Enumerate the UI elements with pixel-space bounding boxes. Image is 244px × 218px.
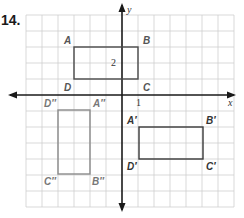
vertex-label-c-prime: C′ <box>206 161 216 172</box>
arrow-up-icon <box>119 3 126 12</box>
vertex-label-a-prime: A′ <box>126 115 137 126</box>
x-axis-label: x <box>227 97 233 108</box>
x-tick-label: 1 <box>136 97 141 108</box>
coordinate-plane: y x 1 2 A B C D A′ B′ C′ D′ A″ B″ C″ D″ <box>0 0 244 218</box>
vertex-label-b-prime: B′ <box>206 115 216 126</box>
y-axis-label: y <box>126 4 132 15</box>
vertex-label-a-double-prime: A″ <box>92 98 106 109</box>
vertex-label-b: B <box>143 35 150 46</box>
vertex-label-b-double-prime: B″ <box>92 176 105 187</box>
arrow-left-icon <box>8 92 17 99</box>
y-tick-label: 2 <box>111 57 116 68</box>
vertex-label-c: C <box>143 82 151 93</box>
y-axis <box>119 3 126 212</box>
rectangle-a-prime: A′ B′ C′ D′ <box>126 115 216 172</box>
vertex-label-d-double-prime: D″ <box>44 98 57 109</box>
vertex-label-d-prime: D′ <box>127 161 137 172</box>
arrow-down-icon <box>119 203 126 212</box>
vertex-label-a: A <box>63 35 71 46</box>
vertex-label-d: D <box>64 82 71 93</box>
vertex-label-c-double-prime: C″ <box>44 176 57 187</box>
grid <box>26 15 234 207</box>
